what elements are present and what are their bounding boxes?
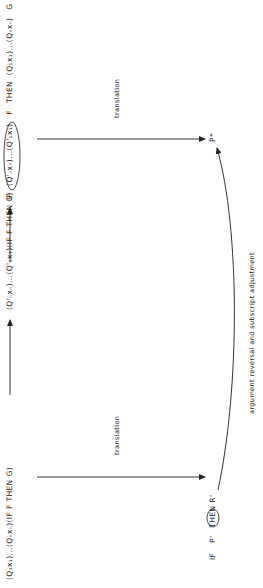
final-circled-quantifiers: (Q'ₙxₙ)...(Q'₁x₁)	[5, 123, 14, 185]
node-p-star: P*	[209, 133, 217, 142]
arrow-argument-reversal	[217, 148, 234, 490]
label-translation-right: translation	[114, 79, 121, 118]
diagram-canvas: (Q₁x₁)...(Qₙxₙ)(IF F THEN G) (Q'ₙxₙ)...(…	[0, 0, 263, 588]
translated-if: IF	[208, 553, 217, 560]
final-g: G	[5, 4, 14, 10]
translated-circled-p: P'	[208, 535, 217, 542]
node-final-formula: IF (Q'ₙxₙ)...(Q'₁x₁) F THEN (Q₁x₁)...(Qₙ…	[6, 4, 14, 200]
diagram-edges	[0, 0, 263, 588]
translated-then: THEN R'	[208, 495, 217, 528]
label-argument-reversal: argument reversal and subscript adjustme…	[249, 252, 256, 414]
final-if: IF	[5, 193, 14, 200]
node-reversed-formula: (Q'ₙxₙ)...(Q'₁x₁)(IF F THEN G)	[6, 192, 14, 310]
final-then: THEN	[5, 81, 14, 103]
final-quantifiers: (Q₁x₁)...(Qₙxₙ)	[5, 18, 14, 76]
label-translation-left: translation	[114, 416, 121, 455]
final-f: F	[5, 110, 14, 115]
node-original-formula: (Q₁x₁)...(Qₙxₙ)(IF F THEN G)	[6, 467, 14, 580]
node-translated-formula: IF P' THEN R'	[209, 495, 217, 560]
